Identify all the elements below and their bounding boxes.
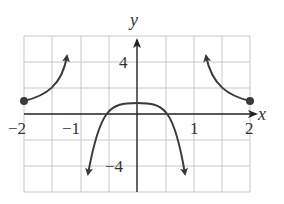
y-tick-label: −4 <box>105 157 124 176</box>
axes <box>24 40 256 192</box>
x-tick-label: −2 <box>8 119 26 138</box>
y-tick-label: 4 <box>119 53 128 72</box>
closed-endpoint-right <box>246 97 254 105</box>
y-axis-label: y <box>128 10 138 30</box>
x-axis-label: x <box>257 104 266 124</box>
x-tick-label: −1 <box>62 119 80 138</box>
left-branch-curve <box>24 56 67 101</box>
function-graph: y x −2 −1 1 2 4 −4 <box>0 0 284 204</box>
right-branch-curve <box>206 56 250 101</box>
x-tick-label: 2 <box>245 119 254 138</box>
x-tick-label: 1 <box>190 119 199 138</box>
closed-endpoint-left <box>20 97 28 105</box>
